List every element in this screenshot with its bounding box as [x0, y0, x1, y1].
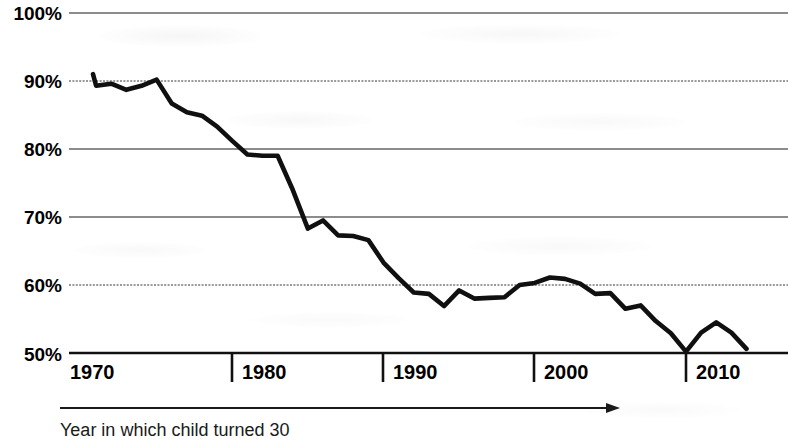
- x-tick-label-1980: 1980: [242, 361, 287, 383]
- x-tick-label-2010: 2010: [696, 361, 741, 383]
- x-tick-label-1970: 1970: [70, 361, 115, 383]
- data-line-series: [93, 74, 747, 351]
- line-chart-canvas: 100% 90% 80% 70% 60% 50% 1970 1980 1990 …: [0, 0, 788, 441]
- x-axis-caption: Year in which child turned 30: [60, 420, 289, 440]
- arrow-head: [606, 403, 620, 413]
- y-tick-label-100: 100%: [13, 3, 62, 24]
- x-axis-direction-arrow: [60, 403, 620, 413]
- y-axis-tick-labels: 100% 90% 80% 70% 60% 50%: [13, 3, 62, 365]
- y-gridlines: [69, 13, 788, 285]
- x-tick-label-1990: 1990: [393, 361, 438, 383]
- chart-figure: 100% 90% 80% 70% 60% 50% 1970 1980 1990 …: [0, 0, 788, 441]
- x-tick-label-2000: 2000: [544, 361, 589, 383]
- x-axis-ticks: [232, 354, 686, 382]
- y-tick-label-70: 70%: [24, 207, 62, 228]
- y-tick-label-90: 90%: [24, 71, 62, 92]
- y-tick-label-60: 60%: [24, 275, 62, 296]
- x-axis-tick-labels: 1970 1980 1990 2000 2010: [70, 361, 741, 383]
- y-tick-label-50: 50%: [24, 344, 62, 365]
- y-tick-label-80: 80%: [24, 139, 62, 160]
